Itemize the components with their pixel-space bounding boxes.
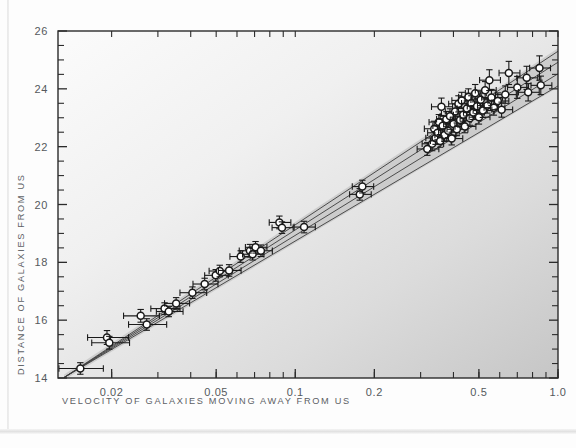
y-tick-label: 24 bbox=[35, 83, 48, 95]
y-tick-label: 14 bbox=[35, 372, 48, 384]
plot-background bbox=[58, 31, 558, 378]
y-tick-label: 26 bbox=[35, 25, 48, 37]
y-tick-label: 18 bbox=[35, 256, 48, 268]
x-axis-title: VELOCITY OF GALAXIES MOVING AWAY FROM US bbox=[62, 396, 351, 406]
x-tick-label: 0.5 bbox=[470, 386, 487, 398]
x-tick-label: 1.0 bbox=[549, 386, 566, 398]
y-axis-title: DISTANCE OF GALAXIES FROM US bbox=[16, 173, 26, 375]
hubble-diagram-chart: 0.020.050.10.20.51.0 14161820222426 VELO… bbox=[0, 0, 576, 448]
y-tick-label: 22 bbox=[35, 141, 48, 153]
y-tick-label: 20 bbox=[35, 199, 48, 211]
figure-page: 0.020.050.10.20.51.0 14161820222426 VELO… bbox=[0, 0, 576, 448]
y-tick-label: 16 bbox=[35, 314, 48, 326]
x-tick-label: 0.2 bbox=[366, 386, 383, 398]
y-axis-tick-labels: 14161820222426 bbox=[35, 25, 48, 384]
